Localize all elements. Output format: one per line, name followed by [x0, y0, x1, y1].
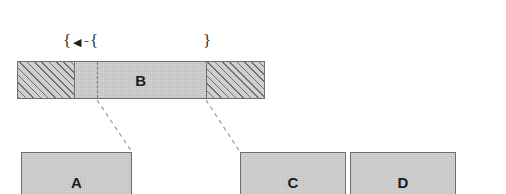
node-box-a: A: [21, 152, 132, 194]
connector-cut-to-a: [97, 100, 132, 152]
node-label-c: C: [241, 175, 345, 190]
mid-brace-marker: {: [90, 32, 98, 49]
connector-boundary-to-c: [206, 100, 240, 152]
right-brace-marker: }: [203, 32, 211, 49]
left-brace-marker: {: [63, 32, 71, 49]
bar-label-b: B: [18, 73, 264, 88]
node-label-a: A: [22, 175, 131, 190]
arrow-tail-dash-icon: –: [84, 36, 89, 46]
left-arrow-icon: ◀: [73, 37, 81, 48]
node-label-d: D: [351, 175, 455, 190]
node-box-d: D: [350, 152, 456, 194]
node-box-c: C: [240, 152, 346, 194]
segmented-bar: B: [17, 61, 265, 99]
diagram-canvas: { ◀ – { } B A C D: [0, 0, 506, 194]
